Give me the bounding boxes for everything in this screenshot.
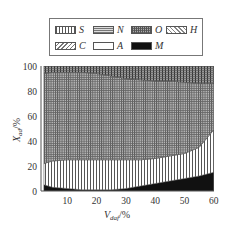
x-tick-label: 40 [150,196,160,206]
y-tick-label: 0 [32,187,37,197]
x-tick-labels: 102030405060 [63,196,219,206]
x-tick-label: 20 [92,196,102,206]
y-tick-label: 40 [28,137,38,147]
x-tick-label: 30 [121,196,131,206]
x-tick-label: 10 [63,196,73,206]
y-tick-label: 100 [23,62,38,72]
y-tick-label: 20 [28,162,38,172]
x-tick-label: 60 [209,196,219,206]
y-tick-label: 60 [28,112,38,122]
chart-svg: 020406080100 102030405060 Vdaf/% Xad/% [0,0,232,229]
area-o [44,72,214,163]
x-tick-label: 50 [180,196,190,206]
y-tick-labels: 020406080100 [23,62,38,197]
x-axis-label: Vdaf/% [104,209,130,222]
y-tick-label: 80 [28,87,38,97]
stacked-areas [44,66,214,191]
y-axis-label: Xad/% [11,118,24,143]
